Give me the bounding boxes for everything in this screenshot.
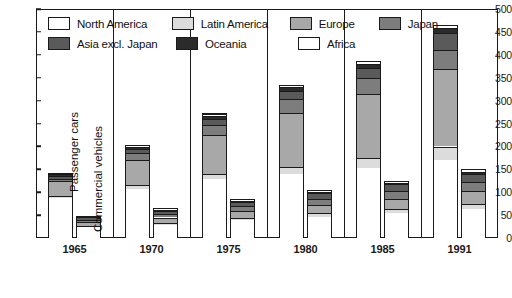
bar-segment-africa (231, 199, 254, 200)
bar-segment-latin-america (434, 147, 457, 161)
x-axis-tick-label: 1985 (370, 243, 394, 255)
legend-item-asia-excl-japan: Asia excl. Japan (48, 37, 176, 50)
legend-item-oceania: Oceania (176, 37, 298, 50)
bar-segment-north-america (126, 189, 149, 238)
bar-segment-north-america (280, 174, 303, 238)
bar-1975-commercial-vehicles (230, 199, 255, 238)
bar-segment-latin-america (154, 223, 177, 225)
bar-segment-latin-america (280, 167, 303, 175)
bar-segment-europe (434, 69, 457, 147)
legend-label-japan: Japan (408, 18, 438, 30)
axis-label-commercial-vehicles: Commercial vehicles (92, 126, 104, 232)
y-axis-tick-mark (36, 169, 41, 171)
y-axis-tick-label: 400 (482, 49, 512, 61)
bar-segment-japan (280, 99, 303, 112)
bar-1985-commercial-vehicles (384, 181, 409, 238)
x-axis-tick-label: 1975 (216, 243, 240, 255)
legend-row: Asia excl. Japan Oceania Africa (48, 36, 438, 51)
bar-segment-north-america (154, 225, 177, 238)
legend-label-asia-excl-japan: Asia excl. Japan (77, 38, 158, 50)
bar-segment-asia-excl-japan (154, 211, 177, 214)
bar-segment-africa (462, 169, 485, 171)
bar-1991-passenger-cars (433, 25, 458, 238)
bar-1991-commercial-vehicles (461, 169, 486, 238)
bar-segment-latin-america (203, 174, 226, 180)
bar-segment-africa (357, 61, 380, 64)
bar-segment-europe (280, 113, 303, 167)
bar-segment-latin-america (385, 209, 408, 213)
y-axis-tick-label: 200 (482, 140, 512, 152)
legend-item-europe: Europe (290, 17, 379, 30)
y-axis-tick-label: 500 (482, 3, 512, 15)
bar-segment-latin-america (231, 218, 254, 220)
legend-label-europe: Europe (319, 18, 355, 30)
legend-swatch-north-america (48, 17, 70, 30)
chart-root: 050100150200250300350400450500 196519701… (0, 0, 512, 298)
bar-segment-asia-excl-japan (308, 193, 331, 198)
bar-segment-japan (203, 125, 226, 135)
bar-segment-africa (280, 85, 303, 88)
bar-segment-japan (357, 78, 380, 94)
y-axis-tick-mark (36, 214, 41, 216)
bar-1970-commercial-vehicles (153, 208, 178, 238)
x-axis-tick-label: 1970 (139, 243, 163, 255)
bar-segment-north-america (434, 160, 457, 238)
bar-segment-latin-america (308, 213, 331, 216)
legend-item-africa: Africa (298, 37, 390, 50)
y-axis-tick-label: 450 (482, 26, 512, 38)
legend-label-north-america: North America (77, 18, 147, 30)
bar-segment-north-america (231, 220, 254, 238)
bar-segment-asia-excl-japan (126, 149, 149, 153)
bar-segment-asia-excl-japan (280, 91, 303, 99)
bar-1970-passenger-cars (125, 145, 150, 238)
y-axis-tick-label: 50 (482, 209, 512, 221)
bar-segment-africa (385, 181, 408, 183)
bar-segment-europe (308, 205, 331, 213)
bar-1980-passenger-cars (279, 85, 304, 238)
bar-1975-passenger-cars (202, 113, 227, 238)
legend-label-latin-america: Latin America (201, 18, 268, 30)
bar-1985-passenger-cars (356, 61, 381, 238)
legend-item-japan: Japan (379, 17, 438, 30)
bar-segment-oceania (462, 172, 485, 174)
y-axis-tick-label: 350 (482, 72, 512, 84)
legend-swatch-latin-america (172, 17, 194, 30)
bar-segment-oceania (203, 116, 226, 119)
bar-segment-africa (154, 208, 177, 209)
bar-segment-japan (126, 153, 149, 159)
bar-segment-africa (308, 190, 331, 192)
bar-segment-asia-excl-japan (203, 119, 226, 124)
bar-segment-japan (308, 199, 331, 205)
bar-1980-commercial-vehicles (307, 190, 332, 238)
y-axis-tick-mark (36, 54, 41, 56)
legend-label-oceania: Oceania (205, 38, 246, 50)
legend-item-north-america: North America (48, 17, 172, 30)
bar-segment-europe (126, 160, 149, 185)
y-axis-tick-mark (36, 8, 41, 10)
x-axis-tick-label: 1965 (62, 243, 86, 255)
x-axis-tick-label: 1991 (447, 243, 471, 255)
bar-segment-europe (203, 135, 226, 174)
bar-segment-oceania (154, 210, 177, 211)
x-axis-tick-label: 1980 (293, 243, 317, 255)
bar-segment-asia-excl-japan (357, 68, 380, 78)
bar-segment-north-america (462, 209, 485, 238)
bar-segment-latin-america (126, 185, 149, 189)
bar-segment-africa (126, 145, 149, 147)
legend-row: North America Latin America Europe Japan (48, 16, 438, 31)
legend-item-latin-america: Latin America (172, 17, 290, 30)
chart-legend: North America Latin America Europe Japan… (48, 16, 438, 56)
legend-swatch-europe (290, 17, 312, 30)
axis-label-passenger-cars: Passenger cars (68, 112, 80, 192)
legend-swatch-oceania (176, 37, 198, 50)
bar-segment-asia-excl-japan (231, 202, 254, 206)
bar-segment-oceania (231, 201, 254, 202)
legend-swatch-japan (379, 17, 401, 30)
bar-segment-europe (357, 94, 380, 158)
bar-segment-europe (385, 199, 408, 209)
bar-segment-oceania (357, 64, 380, 68)
legend-swatch-asia-excl-japan (48, 37, 70, 50)
bar-segment-europe (154, 218, 177, 223)
bar-segment-oceania (126, 147, 149, 150)
legend-label-africa: Africa (327, 38, 355, 50)
